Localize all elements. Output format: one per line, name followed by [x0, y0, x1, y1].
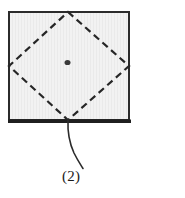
figure-drawing-canvas	[0, 0, 185, 198]
callout-leader-line	[68, 120, 83, 169]
outer-square-fill	[9, 12, 129, 120]
center-point-marker	[65, 60, 71, 65]
figure-container: (2)	[0, 0, 185, 198]
